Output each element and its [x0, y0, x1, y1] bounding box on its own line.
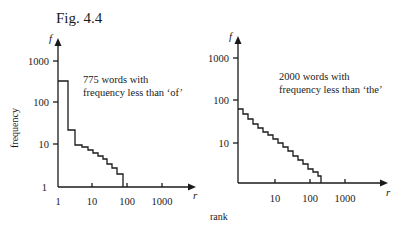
- left-annotation-line-1: 775 words with: [83, 74, 149, 85]
- left-x-var: r: [193, 189, 198, 201]
- right-annotation-line-2: frequency less than ‘the’: [279, 84, 383, 95]
- right-x-var: r: [386, 186, 391, 198]
- right-y-var: f: [229, 30, 234, 42]
- right-x-tick-100: 100: [302, 193, 318, 204]
- left-x-tick-1: 1: [55, 196, 60, 207]
- x-axis-title: rank: [210, 211, 228, 222]
- left-x-tick-10: 10: [87, 196, 98, 207]
- left-x-tick-100: 100: [119, 196, 135, 207]
- right-y-tick-1000: 1000: [208, 53, 229, 64]
- left-y-var: f: [49, 32, 54, 44]
- right-x-tick-10: 10: [270, 193, 281, 204]
- left-x-tick-1000: 1000: [152, 196, 173, 207]
- y-axis-title: frequency: [9, 108, 20, 148]
- right-y-tick-10: 10: [219, 138, 230, 149]
- left-y-tick-1000: 1000: [28, 56, 49, 67]
- left-chart: [53, 38, 196, 191]
- left-y-arrow-icon: [55, 38, 62, 46]
- right-y-tick-100: 100: [213, 95, 229, 106]
- figure-canvas: f r 1000 100 10 1 1 10 100 1000 775 word…: [0, 0, 401, 235]
- right-y-arrow-icon: [235, 36, 242, 44]
- left-annotation-line-2: frequency less than ‘of’: [83, 87, 183, 98]
- right-x-tick-1000: 1000: [335, 193, 356, 204]
- left-y-tick-100: 100: [33, 97, 49, 108]
- right-chart: [233, 36, 388, 187]
- left-y-tick-1: 1: [42, 182, 47, 193]
- right-step-series: [238, 109, 321, 183]
- left-y-tick-10: 10: [39, 139, 50, 150]
- right-annotation-line-1: 2000 words with: [279, 71, 350, 82]
